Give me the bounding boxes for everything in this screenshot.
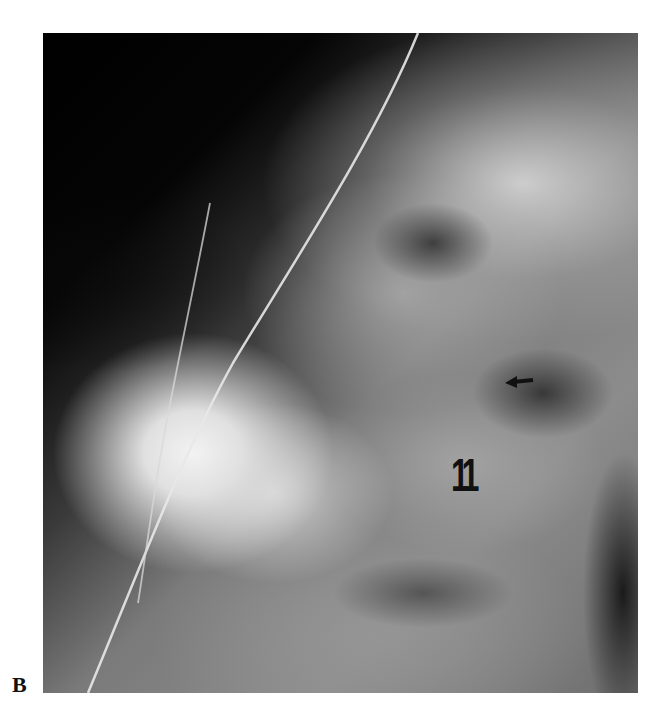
- catheter-wires: [43, 33, 638, 693]
- vertebra-level-label: 11: [451, 452, 474, 498]
- radiograph-image: 11: [43, 33, 638, 693]
- panel-label: B: [12, 672, 27, 698]
- arrow-left-icon: [505, 372, 535, 392]
